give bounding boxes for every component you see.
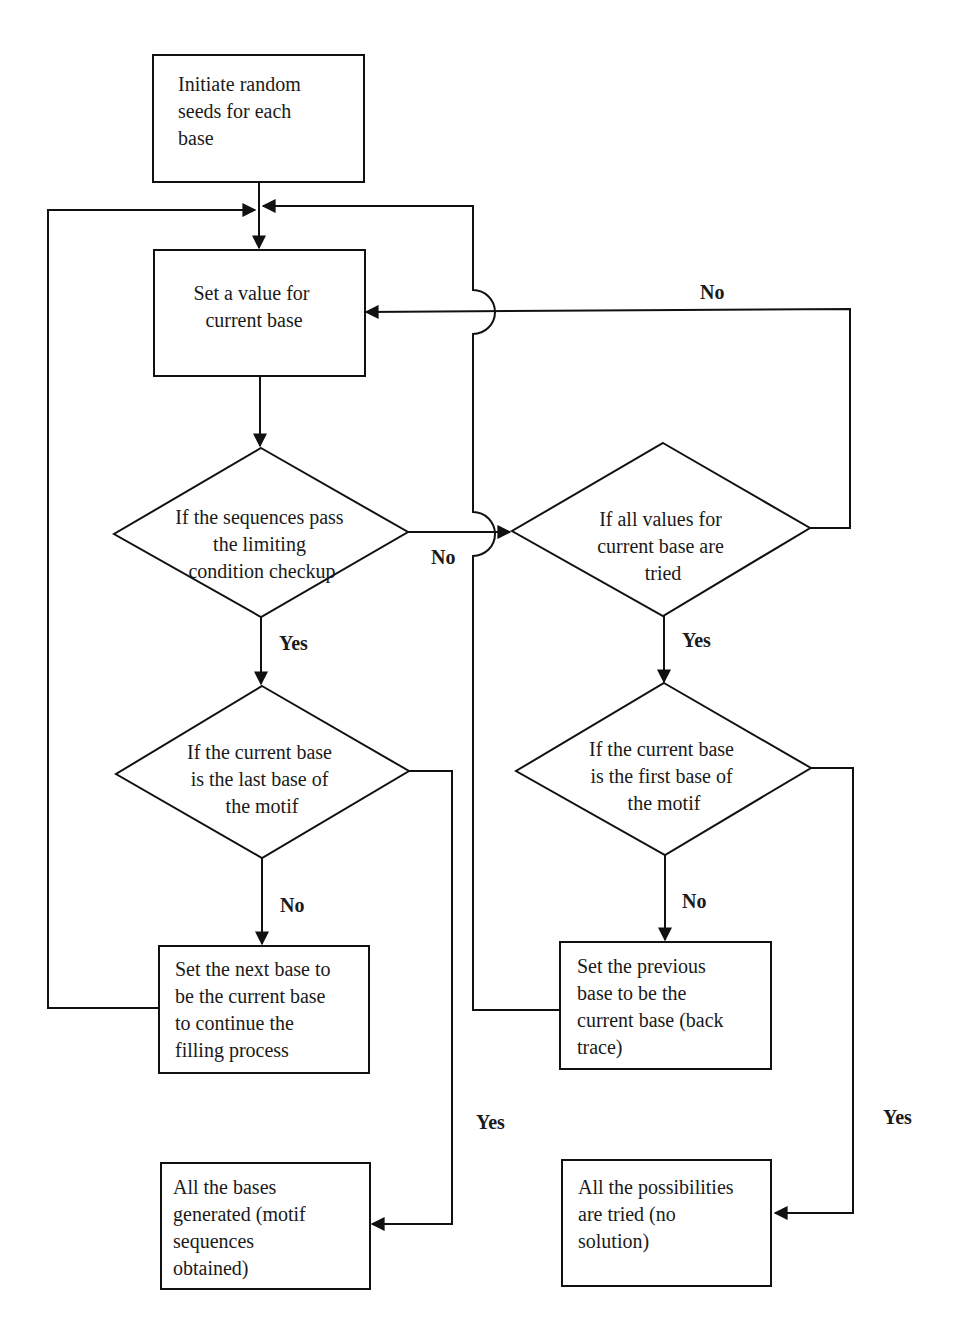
label-all-tried-yes: Yes <box>682 629 711 651</box>
flowchart: Initiate random seeds for each base Set … <box>0 0 969 1331</box>
node-set-value: Set a value for current base <box>154 250 365 376</box>
node-is-last: If the current base is the last base of … <box>116 686 409 858</box>
label-first-no: No <box>682 890 706 912</box>
label-all-tried-no: No <box>700 281 724 303</box>
label-first-yes: Yes <box>883 1106 912 1128</box>
node-check-limit: If the sequences pass the limiting condi… <box>114 448 408 617</box>
edge-first-yes <box>775 768 853 1213</box>
node-init: Initiate random seeds for each base <box>153 55 364 182</box>
label-last-yes: Yes <box>476 1111 505 1133</box>
edge-last-yes <box>372 771 452 1224</box>
node-all-values-tried: If all values for current base are tried <box>512 443 810 616</box>
node-next-base: Set the next base to be the current base… <box>159 946 369 1073</box>
node-done-fail: All the possibilities are tried (no solu… <box>562 1160 771 1286</box>
node-is-first: If the current base is the first base of… <box>516 683 811 855</box>
node-done-success: All the bases generated (motif sequences… <box>161 1163 370 1289</box>
node-prev-base: Set the previous base to be the current … <box>560 942 771 1069</box>
label-check-yes: Yes <box>279 632 308 654</box>
label-last-no: No <box>280 894 304 916</box>
label-check-no: No <box>431 546 455 568</box>
